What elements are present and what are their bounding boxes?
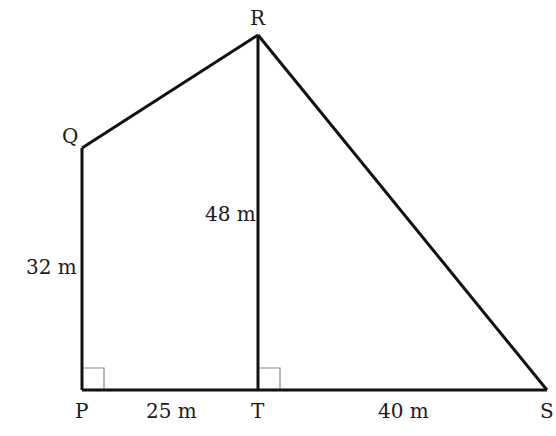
right-angle-mark-t	[258, 368, 280, 390]
measurement-ts: 40 m	[378, 399, 429, 423]
vertex-label-p: P	[75, 399, 88, 423]
geometry-diagram: R Q P T S 32 m 48 m 25 m 40 m	[0, 0, 556, 436]
vertex-label-q: Q	[62, 124, 78, 148]
edge-rs	[258, 35, 547, 390]
measurement-pq: 32 m	[26, 255, 77, 279]
vertex-label-s: S	[540, 399, 554, 423]
vertex-label-r: R	[250, 6, 266, 30]
right-angle-mark-p	[82, 368, 104, 390]
measurement-pt: 25 m	[146, 399, 197, 423]
edge-qr	[82, 35, 258, 148]
vertex-label-t: T	[251, 399, 265, 423]
measurement-rt: 48 m	[205, 202, 256, 226]
